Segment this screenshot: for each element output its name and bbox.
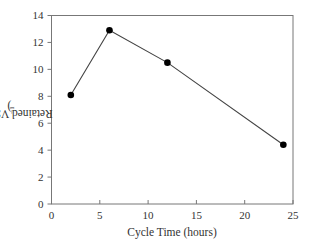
data-point-marker xyxy=(68,92,75,99)
data-point-marker xyxy=(280,141,287,148)
y-axis-ticks xyxy=(48,16,52,205)
chart-plot-area xyxy=(0,0,313,249)
x-axis-ticks xyxy=(52,200,294,204)
series-line xyxy=(71,30,284,144)
plot-frame xyxy=(52,16,294,205)
line-chart: 02468101214 0510152025 Cycle Time (hours… xyxy=(0,0,313,249)
data-point-marker xyxy=(106,27,113,34)
data-point-marker xyxy=(164,59,171,66)
